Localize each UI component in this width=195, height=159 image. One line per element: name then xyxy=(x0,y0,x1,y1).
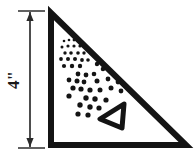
dimension-label: 4" xyxy=(4,71,23,89)
texture-dot xyxy=(84,73,89,78)
dimension-arrowhead-bottom xyxy=(26,138,33,147)
texture-dot xyxy=(109,86,114,91)
texture-dot xyxy=(63,40,66,43)
texture-dot xyxy=(70,64,74,68)
texture-dot xyxy=(95,62,99,66)
texture-dot xyxy=(85,46,88,49)
texture-dot xyxy=(69,51,73,55)
texture-dot xyxy=(78,64,82,68)
texture-dot xyxy=(119,89,124,94)
texture-dot xyxy=(66,93,71,98)
texture-dot xyxy=(78,86,83,91)
texture-dot xyxy=(86,58,90,62)
texture-dot xyxy=(66,44,69,47)
texture-dot xyxy=(76,72,81,77)
texture-dot xyxy=(75,79,80,84)
texture-dot xyxy=(101,67,106,72)
texture-dot xyxy=(76,51,80,55)
texture-dot xyxy=(87,87,92,92)
texture-dot xyxy=(66,57,70,61)
triangle-diagram: 4" xyxy=(0,0,195,159)
texture-dot xyxy=(59,57,63,61)
texture-dot xyxy=(68,39,71,42)
texture-dot xyxy=(70,85,75,90)
dimension-arrowhead-top xyxy=(26,12,33,21)
texture-dot xyxy=(77,102,82,107)
texture-dot xyxy=(116,80,121,85)
texture-dot xyxy=(73,57,77,61)
texture-dot xyxy=(106,77,111,82)
texture-dot xyxy=(95,79,100,84)
texture-dot xyxy=(96,105,101,110)
texture-dot xyxy=(61,46,64,49)
texture-dot xyxy=(78,39,81,42)
texture-dot xyxy=(92,72,97,77)
figure-canvas: 4" xyxy=(0,0,195,159)
small-triangle-outline xyxy=(100,104,124,128)
texture-dot xyxy=(80,58,84,62)
texture-dot xyxy=(73,39,76,42)
texture-dot xyxy=(82,80,87,85)
texture-dot xyxy=(92,96,97,101)
texture-dot xyxy=(72,44,75,47)
texture-dot xyxy=(83,95,88,100)
texture-dot xyxy=(78,44,81,47)
texture-dot xyxy=(85,112,90,117)
texture-dot xyxy=(75,111,80,116)
texture-dot xyxy=(82,51,85,54)
texture-dot xyxy=(62,64,66,68)
texture-dot xyxy=(103,97,108,102)
texture-dot xyxy=(87,104,92,109)
texture-dot xyxy=(67,78,72,83)
texture-dot xyxy=(63,51,66,54)
texture-dot xyxy=(98,88,103,93)
